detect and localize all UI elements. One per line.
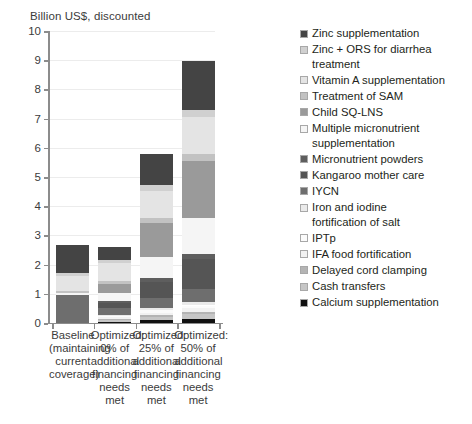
legend-label: Delayed cord clamping [312, 263, 427, 278]
bar-segment [182, 306, 215, 309]
legend-swatch-icon [300, 155, 308, 163]
legend-swatch-icon [300, 46, 308, 54]
legend-swatch-icon [300, 171, 308, 179]
bar-segment [140, 317, 173, 321]
bar-segment [140, 308, 173, 310]
bar-segment [98, 316, 131, 317]
legend-label: Multiple micronutrient supplementation [312, 121, 419, 150]
chart-legend: Zinc supplementationZinc + ORS for diarr… [300, 26, 472, 311]
stacked-bar [56, 245, 89, 323]
bar-segment [140, 298, 173, 308]
y-tick-label: 8 [35, 83, 41, 95]
legend-item[interactable]: IFA food fortification [300, 247, 472, 262]
y-tick-mark [44, 177, 48, 179]
y-tick-mark [44, 206, 48, 208]
legend-item[interactable]: Micronutrient powders [300, 152, 472, 167]
bar-segment [140, 282, 173, 299]
bar-segment [182, 154, 215, 161]
bar-segment [56, 245, 89, 274]
legend-item[interactable]: Zinc + ORS for diarrhea treatment [300, 42, 472, 71]
bar-segment [140, 154, 173, 186]
bar-segment [182, 308, 215, 312]
legend-swatch-icon [300, 234, 308, 242]
category-label: Optimized: 25% of additional financing n… [133, 329, 181, 408]
bar-segment [98, 293, 131, 301]
legend-label: Kangaroo mother care [312, 168, 424, 183]
legend-item[interactable]: Iron and iodine fortification of salt [300, 200, 472, 229]
bar-segment [182, 218, 215, 254]
bar-segment [98, 247, 131, 260]
y-tick-label: 1 [35, 288, 41, 300]
bar-segment [182, 110, 215, 117]
bar-segment [98, 303, 131, 308]
y-tick-label: 6 [35, 142, 41, 154]
legend-label: IPTp [312, 231, 336, 246]
bar-segment [182, 319, 215, 323]
legend-label: Iron and iodine fortification of salt [312, 200, 400, 229]
legend-swatch-icon [300, 299, 308, 307]
y-axis-line [48, 31, 50, 324]
bar-segment [140, 310, 173, 312]
legend-label: Treatment of SAM [312, 89, 403, 104]
bar-segment [182, 289, 215, 302]
y-tick-label: 0 [35, 317, 41, 329]
legend-swatch-icon [300, 283, 308, 291]
bar-segment [56, 293, 89, 294]
bar-segment [98, 284, 131, 293]
y-tick-mark [44, 265, 48, 267]
legend-item[interactable]: Child SQ-LNS [300, 105, 472, 120]
bar-segment [182, 161, 215, 218]
bar-segment [56, 295, 89, 323]
legend-item[interactable]: Treatment of SAM [300, 89, 472, 104]
legend-swatch-icon [300, 76, 308, 84]
stacked-bar [98, 247, 131, 324]
legend-item[interactable]: Calcium supplementation [300, 295, 472, 310]
y-tick-label: 7 [35, 113, 41, 125]
legend-item[interactable]: Cash transfers [300, 279, 472, 294]
bar-segment [98, 301, 131, 303]
legend-item[interactable]: IYCN [300, 184, 472, 199]
bar-segment [182, 314, 215, 319]
legend-label: IYCN [312, 184, 339, 199]
figure-footnote [118, 416, 418, 424]
bar-segment [140, 218, 173, 223]
bar-segment [140, 320, 173, 323]
legend-item[interactable]: Delayed cord clamping [300, 263, 472, 278]
y-tick-mark [44, 235, 48, 237]
bar-segment [98, 281, 131, 284]
legend-item[interactable]: Vitamin A supplementation [300, 73, 472, 88]
legend-label: Cash transfers [312, 279, 385, 294]
legend-swatch-icon [300, 108, 308, 116]
bar-segment [98, 320, 131, 322]
legend-item[interactable]: IPTp [300, 231, 472, 246]
y-tick-mark [44, 148, 48, 150]
legend-swatch-icon [300, 250, 308, 258]
bar-segment [140, 313, 173, 316]
legend-swatch-icon [300, 125, 308, 133]
legend-label: Vitamin A supplementation [312, 73, 445, 88]
legend-label: Calcium supplementation [312, 295, 439, 310]
legend-swatch-icon [300, 204, 308, 212]
bar-segment [56, 291, 89, 294]
bar-segment [56, 273, 89, 276]
bar-segment [182, 254, 215, 260]
legend-item[interactable]: Multiple micronutrient supplementation [300, 121, 472, 150]
y-tick-label: 4 [35, 200, 41, 212]
legend-swatch-icon [300, 187, 308, 195]
bar-segment [98, 317, 131, 318]
legend-item[interactable]: Zinc supplementation [300, 26, 472, 41]
y-tick-label: 2 [35, 259, 41, 271]
legend-label: Micronutrient powders [312, 152, 423, 167]
legend-item[interactable]: Kangaroo mother care [300, 168, 472, 183]
bar-segment [140, 278, 173, 282]
bar-segment [182, 259, 215, 289]
category-label: Baseline (maintaining current coverage) [49, 329, 97, 381]
y-tick-mark [44, 31, 48, 33]
y-tick-label: 9 [35, 54, 41, 66]
bar-segment [140, 185, 173, 190]
bar-segment [98, 308, 131, 314]
bar-segment [98, 315, 131, 316]
bar-segment [182, 117, 215, 154]
legend-label: Zinc + ORS for diarrhea treatment [312, 42, 432, 71]
bar-segment [182, 61, 215, 110]
